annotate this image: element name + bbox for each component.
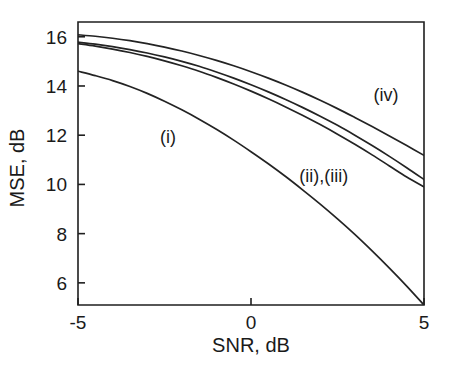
y-tick-label-6: 6: [56, 273, 67, 294]
x-tick-label-5: 5: [419, 312, 430, 333]
x-axis-ticks: [78, 298, 424, 305]
y-axis-ticks: [78, 37, 85, 283]
curve-label-iv: (iv): [373, 85, 398, 105]
x-axis-title: SNR, dB: [212, 334, 290, 356]
y-tick-label-8: 8: [56, 224, 67, 245]
y-tick-label-14: 14: [46, 76, 68, 97]
curve-i: [78, 71, 424, 305]
x-tick-label--5: -5: [70, 312, 87, 333]
y-tick-label-12: 12: [46, 125, 67, 146]
chart-figure: 6810121416 -505 (i)(ii),(iii)(iv) SNR, d…: [0, 0, 450, 371]
curve-label-i: (i): [160, 127, 176, 147]
plot-frame: [78, 22, 424, 305]
curve-label-iiiii: (ii),(iii): [299, 166, 348, 186]
data-curves: [78, 35, 424, 305]
y-axis-tick-labels: 6810121416: [46, 27, 68, 294]
x-tick-label-0: 0: [246, 312, 257, 333]
curve-iii: [78, 44, 424, 187]
curve-ii: [78, 42, 424, 179]
y-axis-title: MSE, dB: [6, 129, 28, 208]
line-chart-svg: 6810121416 -505 (i)(ii),(iii)(iv) SNR, d…: [0, 0, 450, 371]
y-tick-label-10: 10: [46, 174, 67, 195]
x-axis-tick-labels: -505: [70, 312, 430, 333]
y-tick-label-16: 16: [46, 27, 67, 48]
